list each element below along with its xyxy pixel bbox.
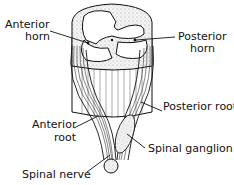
central-canal: [111, 39, 113, 41]
label-anterior-root-1: Anterior: [32, 118, 77, 131]
label-spinal-ganglion: Spinal ganglion: [148, 142, 233, 155]
label-posterior-root: Posterior root: [163, 100, 234, 113]
spinal-ganglion-shape: [111, 113, 139, 156]
label-anterior-root-2: root: [54, 131, 77, 144]
label-anterior-horn-2: horn: [25, 30, 50, 43]
spinal-cord-diagram: Anterior horn Posterior horn Posterior r…: [0, 0, 234, 185]
label-spinal-nerve: Spinal nerve: [22, 168, 91, 181]
label-posterior-horn-2: horn: [190, 42, 215, 55]
spinal-nerve-end: [104, 159, 118, 173]
